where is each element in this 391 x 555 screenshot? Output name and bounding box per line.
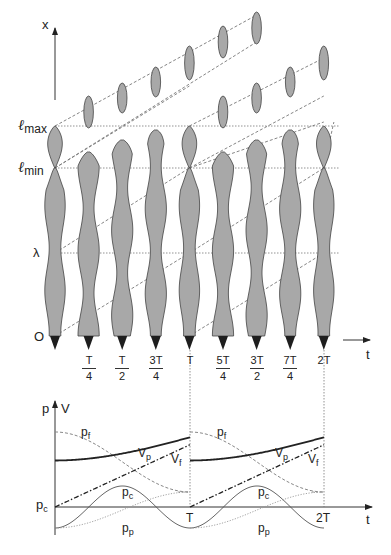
column-t4 xyxy=(179,126,199,336)
lmax-label: ℓmax xyxy=(18,118,47,133)
label-Vp-1: Vp xyxy=(138,447,151,459)
curve-Vp xyxy=(190,437,324,460)
column-t3 xyxy=(145,130,166,336)
tick-T: T xyxy=(179,355,201,367)
y-axis-label-p: p xyxy=(42,402,49,415)
lmin-label: ℓmin xyxy=(18,160,44,175)
lambda-label: λ xyxy=(33,246,40,259)
t-axis-label-upper: t xyxy=(366,348,370,361)
curve-Vp xyxy=(55,437,190,460)
label-Vp-2: Vp xyxy=(275,447,288,459)
label-pc-1: pc xyxy=(122,486,133,498)
tick-3T-over-2: 3T2 xyxy=(246,355,268,383)
label-Vf-1: Vf xyxy=(171,453,182,465)
column-t8 xyxy=(314,126,334,336)
droplet-columns xyxy=(45,12,334,350)
x-tick-T: T xyxy=(186,512,193,524)
column-t2 xyxy=(112,140,133,336)
tick-3T-over-4: 3T4 xyxy=(145,355,167,383)
tick-7T-over-4: 7T4 xyxy=(279,355,301,383)
x-axis-label: x xyxy=(42,18,49,31)
lmin-sub: min xyxy=(24,164,43,178)
label-pp-1: pp xyxy=(122,522,134,534)
curve-pf xyxy=(55,432,190,492)
tick-T-over-4: T4 xyxy=(78,355,100,383)
lmax-sub: max xyxy=(24,122,47,136)
tick-2T: 2T xyxy=(313,355,335,367)
curve-pf xyxy=(190,432,324,492)
tick-T-over-2: T2 xyxy=(111,355,133,383)
column-t6 xyxy=(246,140,267,336)
column-t5 xyxy=(212,152,233,336)
diagram-canvas xyxy=(0,0,391,555)
tick-5T-over-4: 5T4 xyxy=(212,355,234,383)
y-axis-label-V: V xyxy=(61,402,70,415)
diagram-stage: x t ℓmax ℓmin λ O T4 T2 3T4 T 5T4 3T2 7T… xyxy=(0,0,391,555)
label-pc-2: pc xyxy=(258,486,269,498)
label-pf-2: pf xyxy=(217,426,226,438)
x-axis-label-lower: t xyxy=(366,513,370,526)
x-tick-2T: 2T xyxy=(316,512,330,524)
column-t0 xyxy=(45,126,65,336)
label-pf-1: pf xyxy=(81,426,90,438)
label-pp-2: pp xyxy=(258,522,270,534)
baseline-label-pc: pc xyxy=(36,498,48,511)
column-t1 xyxy=(78,152,99,336)
origin-label: O xyxy=(34,330,44,343)
column-t7 xyxy=(280,130,301,336)
label-Vf-2: Vf xyxy=(308,453,319,465)
